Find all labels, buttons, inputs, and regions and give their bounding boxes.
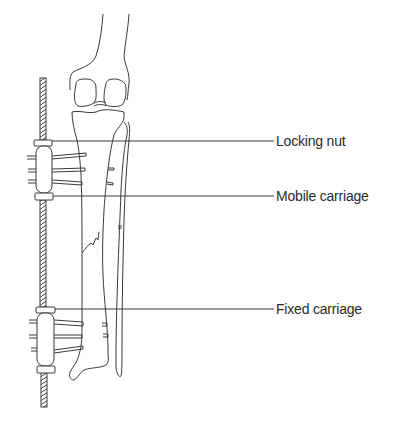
fibula <box>116 122 130 377</box>
label-mobile-carriage: Mobile carriage <box>276 189 369 203</box>
label-locking-nut: Locking nut <box>276 134 345 148</box>
mobile-carriage <box>27 140 114 200</box>
fixator-diagram: Locking nut Mobile carriage Fixed carria… <box>0 0 406 444</box>
fixed-carriage <box>29 307 108 373</box>
femur <box>70 14 129 107</box>
leader-lines <box>52 141 274 309</box>
diagram-canvas <box>0 0 406 444</box>
label-fixed-carriage: Fixed carriage <box>276 302 362 316</box>
